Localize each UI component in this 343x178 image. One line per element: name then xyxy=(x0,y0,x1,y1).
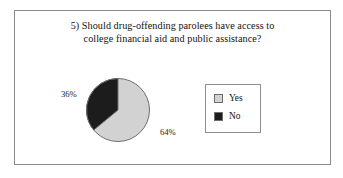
legend-item-yes[interactable]: Yes xyxy=(214,93,243,103)
legend-item-no[interactable]: No xyxy=(214,111,240,121)
chart-area: 36% 64% Yes No xyxy=(15,63,330,163)
legend-swatch-no xyxy=(214,112,223,121)
chart-legend: Yes No xyxy=(205,84,261,133)
legend-swatch-yes xyxy=(214,94,223,103)
legend-label-no: No xyxy=(229,111,240,121)
chart-title-line-1: 5) Should drug-offending parolees have a… xyxy=(15,20,330,33)
pie-slice-no xyxy=(86,78,150,142)
chart-title: 5) Should drug-offending parolees have a… xyxy=(15,20,330,45)
pie-chart xyxy=(86,78,150,142)
pie-label-yes: 64% xyxy=(160,127,176,137)
legend-label-yes: Yes xyxy=(229,93,243,103)
pie-label-no: 36% xyxy=(61,89,77,99)
figure-frame: 5) Should drug-offending parolees have a… xyxy=(14,10,331,165)
chart-title-line-2: college financial aid and public assista… xyxy=(15,33,330,46)
